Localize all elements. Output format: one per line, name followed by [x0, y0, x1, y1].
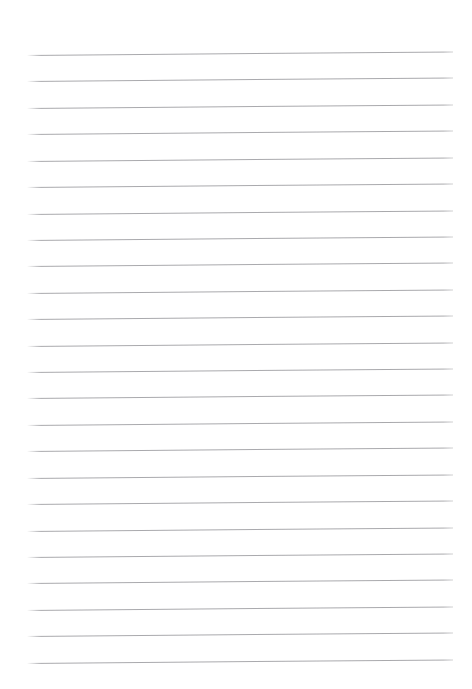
ruled-line [27, 500, 453, 505]
ruled-line [27, 633, 453, 638]
ruled-line [27, 448, 453, 453]
ruled-line [27, 316, 453, 321]
ruled-line [27, 78, 453, 83]
ruled-line [27, 527, 453, 532]
ruled-line [27, 606, 453, 611]
ruled-line [27, 395, 453, 400]
ruled-line [27, 580, 453, 585]
ruled-line [27, 421, 453, 426]
ruled-line [27, 368, 453, 373]
ruled-line [27, 342, 453, 347]
ruled-line [27, 553, 453, 558]
ruled-line [27, 131, 453, 136]
paper-sheet [0, 0, 472, 689]
ruled-line [27, 210, 453, 215]
ruled-line-field [0, 0, 472, 689]
ruled-line [27, 474, 453, 479]
ruled-line [27, 157, 453, 162]
ruled-line [27, 236, 453, 241]
ruled-line [27, 104, 453, 109]
ruled-line [27, 289, 453, 294]
ruled-line [27, 184, 453, 189]
ruled-line [27, 263, 453, 268]
ruled-line [27, 659, 453, 664]
ruled-line [27, 51, 453, 56]
